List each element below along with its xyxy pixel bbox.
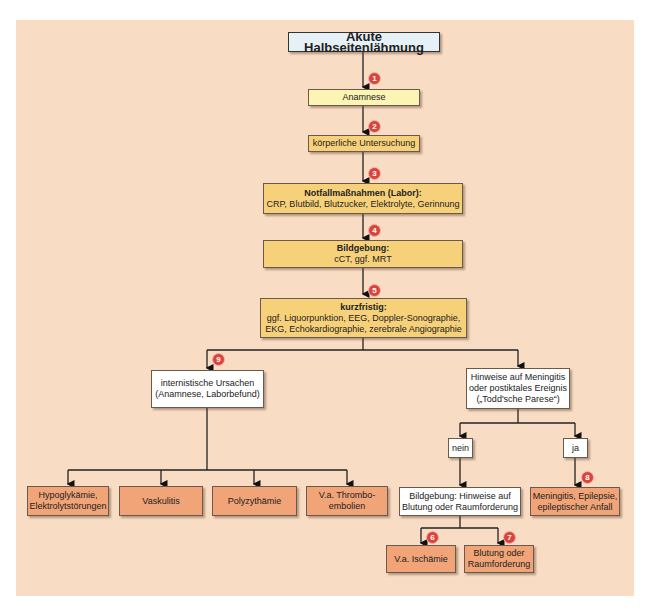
outcome-ischaemie: V.a. Ischämie [386, 545, 456, 573]
bildgebung-blutung-box: Bildgebung: Hinweise auf Blutung oder Ra… [399, 487, 521, 516]
box-line: Bildgebung: Hinweise auf [409, 491, 511, 502]
step-bildgebung: Bildgebung: cCT, ggf. MRT [263, 240, 463, 268]
box-line: V.a. Ischämie [394, 554, 448, 565]
step-heading: kurzfristig: [340, 302, 387, 313]
outcome-polyzythaemie: Polyzythämie [212, 486, 297, 516]
step-badge-3: 3 [368, 167, 381, 180]
step-label: körperliche Untersuchung [313, 138, 416, 149]
step-badge-2: 2 [368, 120, 381, 133]
meningitis-hinweise-box: Hinweise auf Meningitis oder postiktales… [466, 368, 570, 409]
step-anamnese: Anamnese [308, 89, 420, 106]
box-line: V.a. Thrombo- [319, 490, 376, 501]
diagram-title: Akute Halbseitenlähmung [288, 32, 440, 52]
box-line: Blutung oder [473, 548, 524, 559]
internistische-ursachen-box: internistische Ursachen (Anamnese, Labor… [151, 370, 264, 408]
step-badge-4: 4 [368, 224, 381, 237]
step-badge-5: 5 [368, 284, 381, 297]
decision-nein: nein [448, 438, 473, 458]
box-line: Hinweise auf Meningitis [471, 372, 566, 383]
step-badge-7: 7 [503, 531, 516, 544]
box-line: Blutung oder Raumforderung [402, 502, 518, 513]
step-badge-6: 6 [426, 531, 439, 544]
box-line: internistische Ursachen [161, 378, 255, 389]
box-line: nein [452, 443, 469, 454]
box-line: (Anamnese, Laborbefund) [155, 389, 260, 400]
outcome-hypoglykaemie: Hypoglykämie, Elektrolytstörungen [27, 486, 109, 516]
box-line: Polyzythämie [228, 496, 282, 507]
step-badge-8: 8 [581, 471, 594, 484]
step-heading: Bildgebung: [337, 243, 390, 254]
step-koerperliche-untersuchung: körperliche Untersuchung [308, 135, 420, 152]
box-line: Hypoglykämie, [38, 490, 97, 501]
step-label: Anamnese [342, 92, 385, 103]
outcome-vaskulitis: Vaskulitis [119, 486, 203, 516]
box-line: oder postiktales Ereignis [469, 383, 567, 394]
box-line: Elektrolytstörungen [29, 501, 106, 512]
box-line: („Todd'sche Parese“) [476, 394, 559, 405]
box-line: embolien [329, 501, 366, 512]
step-heading: Notfallmaßnahmen (Labor): [304, 188, 422, 199]
box-line: Vaskulitis [142, 496, 179, 507]
outcome-thromboembolien: V.a. Thrombo- embolien [306, 486, 388, 516]
outcome-blutung-raumforderung: Blutung oder Raumforderung [464, 545, 534, 573]
step-badge-9: 9 [212, 353, 225, 366]
title-text: Akute Halbseitenlähmung [289, 31, 439, 53]
step-detail: ggf. Liquorpunktion, EEG, Doppler-Sonogr… [267, 313, 461, 324]
step-badge-1: 1 [368, 72, 381, 85]
box-line: Raumforderung [468, 559, 531, 570]
box-line: epileptischer Anfall [537, 502, 612, 513]
step-detail: CRP, Blutbild, Blutzucker, Elektrolyte, … [267, 199, 460, 210]
step-kurzfristig: kurzfristig: ggf. Liquorpunktion, EEG, D… [260, 298, 467, 338]
step-notfallmassnahmen: Notfallmaßnahmen (Labor): CRP, Blutbild,… [263, 183, 463, 214]
box-line: ja [572, 443, 579, 454]
decision-ja: ja [563, 438, 588, 458]
outcome-meningitis-epilepsie: Meningitis, Epilepsie, epileptischer Anf… [530, 487, 620, 516]
box-line: Meningitis, Epilepsie, [533, 491, 618, 502]
step-detail: EKG, Echokardiographie, zerebrale Angiog… [265, 324, 462, 335]
step-detail: cCT, ggf. MRT [334, 254, 391, 265]
